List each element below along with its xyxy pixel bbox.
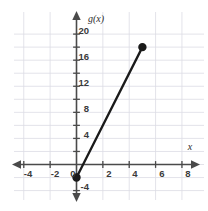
y-tick-label-neg4: -4 <box>81 181 90 192</box>
y-tick-label-4: 4 <box>84 129 90 140</box>
origin-label: 0 <box>70 168 75 179</box>
data-endpoint-dot <box>139 44 146 51</box>
chart-container: 20 16 12 8 4 -4 -4 -2 0 2 4 6 8 g(x) x <box>0 0 208 211</box>
y-axis-label: g(x) <box>88 13 105 25</box>
x-tick-label-neg2: -2 <box>51 168 59 179</box>
line-graph: 20 16 12 8 4 -4 -4 -2 0 2 4 6 8 g(x) x <box>0 0 208 211</box>
y-tick-label-8: 8 <box>84 103 89 114</box>
y-tick-label-20: 20 <box>78 25 89 36</box>
x-tick-label-2: 2 <box>106 168 111 179</box>
x-tick-label-6: 6 <box>159 168 164 179</box>
y-tick-label-16: 16 <box>78 51 89 62</box>
chart-background <box>0 0 208 211</box>
x-tick-label-8: 8 <box>185 168 190 179</box>
y-tick-label-12: 12 <box>78 77 89 88</box>
x-tick-label-4: 4 <box>132 168 138 179</box>
x-tick-label-neg4: -4 <box>24 168 33 179</box>
x-axis-label: x <box>187 141 193 152</box>
